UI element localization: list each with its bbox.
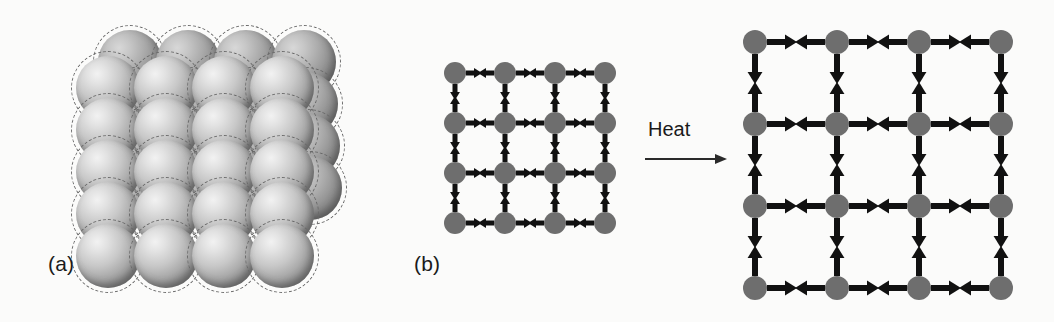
bond-arrow-icon [849,276,879,300]
heat-label: Heat [648,118,690,141]
bond-arrow-icon [989,54,1013,84]
bond-arrow-icon [849,194,879,218]
bond-arrow-icon [877,194,907,218]
bond-arrow-icon [931,112,961,136]
bond-arrow-icon [597,196,613,212]
lattice-atom [907,194,931,218]
bond-arrow-icon [795,276,825,300]
bond-arrow-icon [907,54,931,84]
lattice-atom [825,112,849,136]
bond-arrow-icon [547,196,563,212]
lattice-atom [743,194,767,218]
bond-arrow-icon [528,215,544,231]
bond-arrow-icon [795,30,825,54]
bond-arrow-icon [478,115,494,131]
bond-arrow-icon [767,194,797,218]
bond-arrow-icon [447,96,463,112]
bond-arrow-icon [959,276,989,300]
bond-arrow-icon [989,218,1013,248]
bond-arrow-icon [931,276,961,300]
bond-arrow-icon [795,194,825,218]
lattice-atom [544,212,566,234]
bond-arrow-icon [907,136,931,166]
heat-arrow-icon [645,152,727,170]
bond-arrow-icon [907,82,931,112]
lattice-atom [444,62,466,84]
lattice-atom [907,276,931,300]
sphere-body [250,224,314,288]
bond-arrow-icon [825,164,849,194]
bond-arrow-icon [825,54,849,84]
atom-sphere [250,224,314,288]
bond-arrow-icon [743,246,767,276]
bond-arrow-icon [743,164,767,194]
bond-arrow-icon [447,196,463,212]
lattice-atom [743,30,767,54]
lattice-atom [494,112,516,134]
lattice-atom [989,194,1013,218]
bond-arrow-icon [877,276,907,300]
lattice-atom [907,30,931,54]
bond-arrow-icon [825,136,849,166]
bond-arrow-icon [825,218,849,248]
bond-arrow-icon [989,136,1013,166]
lattice-atom [743,276,767,300]
bond-arrow-icon [743,218,767,248]
bond-arrow-icon [578,65,594,81]
bond-arrow-icon [478,65,494,81]
lattice-atom [444,212,466,234]
lattice-atom [989,276,1013,300]
bond-arrow-icon [478,165,494,181]
bond-arrow-icon [959,194,989,218]
lattice-atom [544,62,566,84]
bond-arrow-icon [989,82,1013,112]
bond-arrow-icon [959,112,989,136]
bond-arrow-icon [528,165,544,181]
panel-b-lattice-model: Heat [400,0,1054,322]
bond-arrow-icon [959,30,989,54]
bond-arrow-icon [931,194,961,218]
lattice-atom [594,162,616,184]
lattice-atom [494,62,516,84]
bond-arrow-icon [989,246,1013,276]
bond-arrow-icon [877,112,907,136]
lattice-atom [594,112,616,134]
lattice-atom [825,276,849,300]
bond-arrow-icon [825,246,849,276]
lattice-atom [544,162,566,184]
bond-arrow-icon [528,65,544,81]
bond-arrow-icon [447,146,463,162]
lattice-atom [825,30,849,54]
bond-arrow-icon [743,54,767,84]
bond-arrow-icon [849,112,879,136]
bond-arrow-icon [478,215,494,231]
bond-arrow-icon [497,96,513,112]
lattice-atom [594,62,616,84]
bond-arrow-icon [743,136,767,166]
lattice-atom [444,162,466,184]
bond-arrow-icon [578,215,594,231]
lattice-atom [494,162,516,184]
panel-b-label: (b) [414,252,440,276]
bond-arrow-icon [547,96,563,112]
lattice-atom [743,112,767,136]
lattice-atom [544,112,566,134]
bond-arrow-icon [795,112,825,136]
bond-arrow-icon [528,115,544,131]
bond-arrow-icon [597,146,613,162]
bond-arrow-icon [877,30,907,54]
bond-arrow-icon [767,276,797,300]
bond-arrow-icon [547,146,563,162]
bond-arrow-icon [767,30,797,54]
lattice-atom [907,112,931,136]
bond-arrow-icon [497,196,513,212]
lattice-atom [444,112,466,134]
bond-arrow-icon [907,164,931,194]
panel-a-label: (a) [48,252,74,276]
bond-arrow-icon [907,246,931,276]
thermal-expansion-figure: (a) [0,0,1054,322]
bond-arrow-icon [497,146,513,162]
bond-arrow-icon [743,82,767,112]
bond-arrow-icon [907,218,931,248]
lattice-atom [825,194,849,218]
